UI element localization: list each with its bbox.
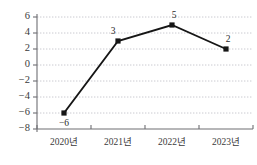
x-axis [37,125,253,129]
data-point-2021 [115,38,120,43]
y-label-minus-6: −6 [19,106,30,117]
data-point-2023 [223,46,228,51]
y-label-minus-8: −8 [19,122,30,133]
y-tick-labels: 6 4 2 0 −2 −4 −6 −8 [19,10,31,133]
point-label-2021: 3 [111,26,116,36]
x-label-2021: 2021년 [104,137,132,147]
data-point-2020 [61,110,66,115]
y-label-minus-4: −4 [19,90,31,101]
y-label-0: 0 [25,58,30,69]
x-label-2022: 2022년 [158,137,186,147]
line-chart-figure: 6 4 2 0 −2 −4 −6 −8 2020년 2021년 2022년 20… [0,0,257,165]
x-label-2023: 2023년 [212,137,240,147]
y-gridlines [37,17,253,113]
series-line-path [64,25,226,113]
data-point-labels: −6 3 5 2 [59,10,231,128]
x-label-2020: 2020년 [50,137,78,147]
y-label-4: 4 [25,26,31,37]
data-series [61,22,228,115]
chart-plot-area: 6 4 2 0 −2 −4 −6 −8 2020년 2021년 2022년 20… [0,0,257,165]
y-axis [33,14,37,132]
x-tick-labels: 2020년 2021년 2022년 2023년 [50,137,240,147]
data-point-2022 [169,22,174,27]
point-label-2023: 2 [226,34,231,44]
y-label-2: 2 [25,42,30,53]
y-label-minus-2: −2 [19,74,30,85]
point-label-2022: 5 [172,10,177,20]
point-label-2020: −6 [59,118,69,128]
y-label-6: 6 [25,10,30,21]
